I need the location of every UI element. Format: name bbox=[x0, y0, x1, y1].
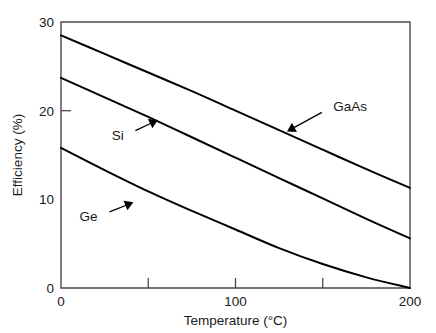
series-label-si: Si bbox=[112, 128, 124, 143]
efficiency-vs-temperature-chart: 30 20 10 0 0 100 200 Temperature (°C) Ef… bbox=[0, 0, 436, 333]
x-tick-label-100: 100 bbox=[224, 294, 247, 309]
y-tick-label-30: 30 bbox=[39, 15, 54, 30]
x-tick-label-200: 200 bbox=[399, 294, 422, 309]
x-axis-title: Temperature (°C) bbox=[184, 313, 288, 328]
y-axis-title: Efficiency (%) bbox=[10, 114, 25, 196]
x-tick-label-0: 0 bbox=[57, 294, 65, 309]
y-tick-label-20: 20 bbox=[39, 104, 54, 119]
series-label-ge: Ge bbox=[79, 209, 97, 224]
chart-background bbox=[0, 0, 436, 333]
y-tick-label-10: 10 bbox=[39, 192, 54, 207]
series-label-gaas: GaAs bbox=[333, 99, 367, 114]
y-tick-label-0: 0 bbox=[46, 281, 54, 296]
chart-canvas: 30 20 10 0 0 100 200 Temperature (°C) Ef… bbox=[0, 0, 436, 333]
